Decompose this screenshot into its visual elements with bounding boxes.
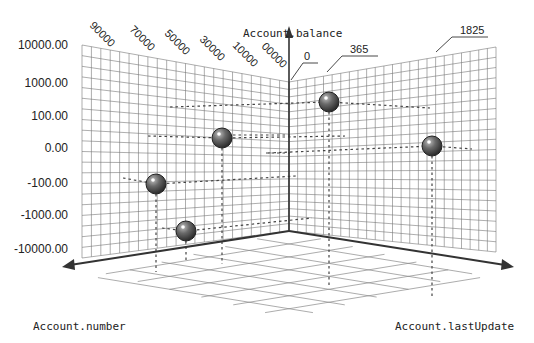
floor-grid <box>98 239 480 313</box>
sphere-highlight <box>427 140 431 144</box>
right-axis-title: Account.lastUpdate <box>395 320 514 333</box>
y-axis-title: Account.balance <box>243 27 342 40</box>
left-tick-label: 10000 <box>231 39 261 69</box>
y-tick-label: -1000.00 <box>21 208 69 222</box>
left-tick-label: 30000 <box>198 33 228 63</box>
right-tick-label: 0 <box>304 50 310 62</box>
right-axis-arrow-icon <box>501 259 514 270</box>
left-axis-arrow-icon <box>62 259 75 270</box>
left-tick-label: 90000 <box>88 19 118 49</box>
left-tick-label: 50000 <box>163 27 193 57</box>
left-tick-label: 00000 <box>260 40 290 70</box>
y-tick-label: 0.00 <box>45 141 69 155</box>
sphere-highlight <box>151 178 155 182</box>
y-tick-labels: 10000.00 1000.00 100.00 0.00 -100.00 -10… <box>14 38 68 256</box>
data-point-sphere <box>212 128 232 148</box>
right-tick-label: 365 <box>350 43 368 55</box>
sphere-highlight <box>324 96 328 100</box>
data-point-sphere <box>146 174 166 194</box>
data-point-sphere <box>319 92 339 112</box>
data-points <box>146 92 442 241</box>
y-tick-label: -100.00 <box>27 176 68 190</box>
data-point-sphere <box>422 136 442 156</box>
data-point-sphere <box>176 221 196 241</box>
y-tick-label: -10000.00 <box>14 242 68 256</box>
right-depth-axis <box>289 231 505 265</box>
y-tick-label: 100.00 <box>31 109 68 123</box>
y-tick-label: 1000.00 <box>25 76 69 90</box>
left-axis-title: Account.number <box>33 320 126 333</box>
left-tick-label: 70000 <box>128 23 158 53</box>
right-wall-grid <box>289 47 496 252</box>
sphere-highlight <box>181 225 185 229</box>
3d-scatter-chart: 10000.00 1000.00 100.00 0.00 -100.00 -10… <box>0 0 534 343</box>
y-tick-label: 10000.00 <box>18 38 68 52</box>
right-tick-label: 1825 <box>460 24 484 36</box>
sphere-highlight <box>217 132 221 136</box>
